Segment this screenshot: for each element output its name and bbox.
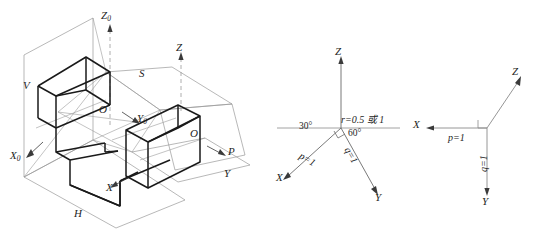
label-ratio-r: r=0.5 或 1 — [341, 111, 384, 126]
label-axis-y-iso: Y — [375, 192, 381, 203]
plane-s-outline — [93, 18, 235, 110]
label-origin-upper: O — [99, 104, 107, 115]
right-angle-marker-oblique — [478, 120, 487, 128]
drawing-canvas — [0, 0, 545, 234]
label-plane-p: P — [228, 146, 235, 157]
label-plane-v: V — [23, 80, 30, 91]
label-axis-x-iso: X — [276, 172, 283, 183]
label-plane-h: H — [74, 208, 82, 219]
label-axis-y-oblique: Y — [482, 196, 488, 207]
technical-drawing-figure: Z0 Y0 X0 O O V H S P Z Y X Z X Y 30° 60°… — [0, 0, 545, 234]
label-ratio-q-oblique: q=1 — [478, 155, 489, 172]
label-axis-x-oblique: X — [413, 119, 420, 130]
label-plane-s: S — [139, 68, 145, 79]
label-x0: X0 — [10, 150, 20, 163]
label-axis-z-oblique: Z — [512, 66, 518, 77]
axis-y-arrow — [207, 146, 226, 156]
label-axis-z-iso: Z — [335, 46, 341, 57]
obl-axis-z — [487, 76, 521, 128]
label-ratio-p-oblique: p=1 — [448, 132, 465, 143]
label-angle-60: 60° — [348, 129, 361, 139]
label-axis-z-3d: Z — [176, 42, 182, 53]
iso-axis-x — [283, 128, 341, 180]
label-axis-y-3d: Y — [224, 168, 230, 179]
label-z0: Z0 — [101, 10, 111, 23]
panel-oblique-axes-geometry — [426, 76, 521, 196]
label-y0: Y0 — [137, 113, 147, 126]
label-origin-right: O — [190, 128, 198, 139]
label-angle-30: 30° — [299, 122, 312, 132]
label-axis-x-3d: X — [106, 182, 113, 193]
axis-z-line — [178, 52, 183, 112]
